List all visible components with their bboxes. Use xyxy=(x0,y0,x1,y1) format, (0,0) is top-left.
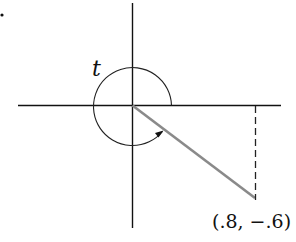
terminal-ray xyxy=(133,106,256,199)
angle-label-t: t xyxy=(92,56,101,81)
stray-dot xyxy=(0,13,3,16)
point-label: (.8, −.6) xyxy=(212,210,291,232)
arc-arrowhead-icon xyxy=(155,131,164,138)
unit-circle-angle-diagram: t (.8, −.6) xyxy=(0,0,296,242)
